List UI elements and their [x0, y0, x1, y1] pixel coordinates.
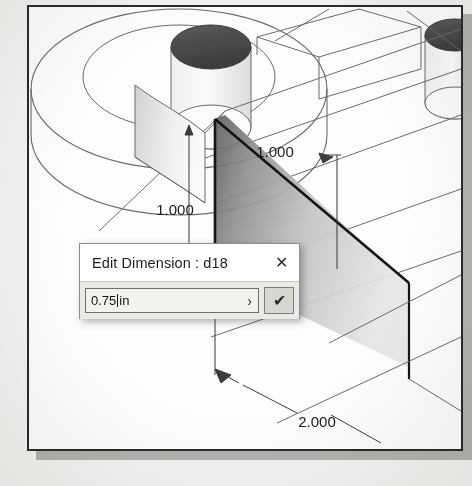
- dialog-body: 0.75 in › ✔: [80, 282, 299, 319]
- rib-wireframe: [257, 9, 421, 99]
- value-units: in: [119, 293, 129, 308]
- dimension-value-input[interactable]: 0.75 in ›: [85, 288, 259, 313]
- chevron-right-icon[interactable]: ›: [247, 289, 252, 312]
- close-icon[interactable]: ✕: [269, 250, 293, 274]
- dialog-title-bar[interactable]: Edit Dimension : d18 ✕: [80, 244, 299, 282]
- edit-dimension-dialog[interactable]: Edit Dimension : d18 ✕ 0.75 in › ✔: [79, 243, 300, 319]
- text-caret: [117, 294, 118, 307]
- dimension-label-lower: 2.000: [298, 413, 336, 430]
- cad-viewport[interactable]: 1.000 1.000 2.000: [27, 5, 463, 451]
- cad-model-drawing: 1.000 1.000 2.000: [29, 7, 461, 449]
- dialog-title: Edit Dimension : d18: [92, 255, 228, 271]
- value-number: 0.75: [91, 293, 116, 308]
- accept-button[interactable]: ✔: [264, 287, 294, 314]
- dimension-label-vertical-left: 1.000: [156, 201, 194, 218]
- checkmark-icon: ✔: [273, 291, 286, 310]
- cylinder-hole-secondary: [425, 19, 461, 119]
- dimension-label-upper-right: 1.000: [256, 143, 294, 160]
- scanned-page-background: 1.000 1.000 2.000 Edit Dimension : d18 ✕…: [0, 0, 472, 486]
- dimension-value-text: 0.75 in: [91, 293, 129, 308]
